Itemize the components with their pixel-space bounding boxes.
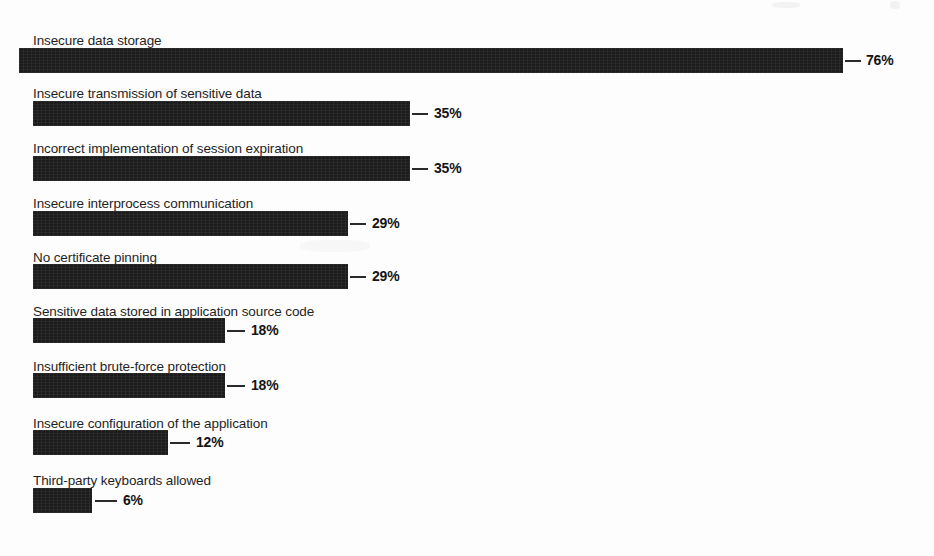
bar-fill — [33, 156, 410, 181]
bar-value-label: 29% — [372, 215, 399, 231]
bar-fill — [33, 430, 168, 455]
bar-fill — [33, 211, 348, 236]
bar-category-label: Incorrect implementation of session expi… — [33, 141, 303, 156]
bar-category-label: Third-party keyboards allowed — [33, 473, 211, 488]
bar-fill — [33, 101, 410, 126]
bar-leader-line — [227, 385, 245, 387]
bar-value-label: 6% — [123, 492, 143, 508]
bar-leader-line — [350, 276, 366, 278]
bar-category-label: Insufficient brute-force protection — [33, 359, 226, 374]
bar-category-label: Insecure transmission of sensitive data — [33, 86, 262, 101]
bar-value-label: 18% — [251, 377, 278, 393]
scan-artifact — [890, 1, 900, 9]
bar-leader-line — [412, 168, 428, 170]
bar-leader-line — [95, 500, 117, 502]
bar-category-label: Insecure interprocess communication — [33, 196, 253, 211]
bar-fill — [33, 488, 92, 513]
scan-artifact — [772, 2, 800, 8]
bar-leader-line — [350, 223, 366, 225]
bar-value-label: 12% — [196, 434, 223, 450]
bar-leader-line — [227, 330, 245, 332]
horizontal-bar-chart: Insecure data storage76%Insecure transmi… — [0, 0, 934, 556]
bar-fill — [33, 373, 225, 398]
bar-category-label: Insecure configuration of the applicatio… — [33, 416, 268, 431]
bar-fill — [33, 318, 225, 343]
bar-fill — [33, 264, 348, 289]
bar-leader-line — [412, 113, 428, 115]
scan-artifact — [300, 240, 370, 252]
bar-value-label: 29% — [372, 268, 399, 284]
bar-category-label: No certificate pinning — [33, 250, 157, 265]
bar-leader-line — [845, 60, 861, 62]
bar-fill — [19, 48, 843, 73]
bar-category-label: Insecure data storage — [33, 33, 161, 48]
bar-value-label: 35% — [434, 160, 461, 176]
bar-value-label: 18% — [251, 322, 278, 338]
bar-value-label: 35% — [434, 105, 461, 121]
bar-category-label: Sensitive data stored in application sou… — [33, 304, 314, 319]
bar-leader-line — [170, 442, 190, 444]
bar-value-label: 76% — [866, 52, 893, 68]
